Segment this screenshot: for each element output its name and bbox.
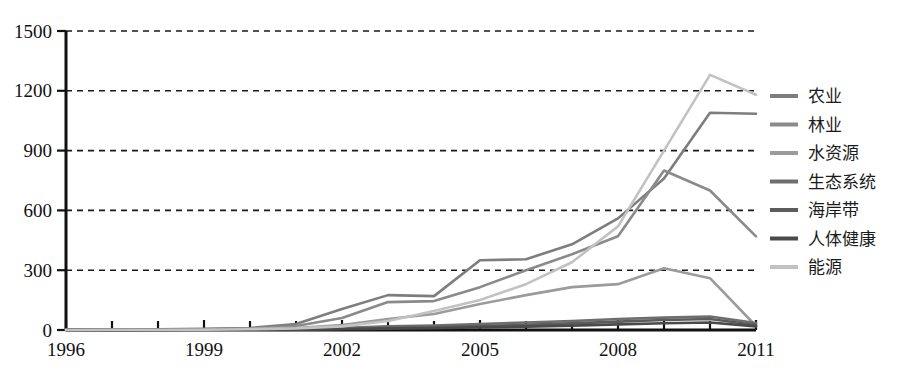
legend-label-4: 海岸带 — [808, 200, 859, 220]
y-tick-label: 1200 — [14, 80, 52, 101]
series-line-1 — [66, 171, 756, 330]
gridlines — [66, 31, 756, 270]
chart-canvas: 030060090012001500 199619992002200520082… — [0, 0, 900, 378]
y-tick-label: 0 — [43, 320, 53, 341]
y-axis: 030060090012001500 — [14, 21, 66, 341]
legend-label-5: 人体健康 — [808, 229, 876, 249]
x-tick-label: 2011 — [737, 339, 774, 360]
x-tick-label: 1996 — [47, 339, 85, 360]
legend-label-6: 能源 — [808, 257, 842, 277]
y-tick-label: 1500 — [14, 21, 52, 42]
x-tick-label: 1999 — [185, 339, 223, 360]
series-line-6 — [66, 75, 756, 330]
series-line-0 — [66, 113, 756, 330]
legend-label-1: 林业 — [808, 115, 842, 135]
y-tick-label: 600 — [24, 200, 53, 221]
x-tick-label: 2005 — [461, 339, 499, 360]
legend: 农业林业水资源生态系统海岸带人体健康能源 — [770, 86, 876, 277]
x-tick-label: 2008 — [599, 339, 637, 360]
line-chart: 030060090012001500 199619992002200520082… — [0, 0, 900, 378]
y-tick-label: 900 — [24, 140, 53, 161]
data-series — [66, 75, 756, 330]
legend-label-3: 生态系统 — [808, 172, 876, 192]
x-tick-label: 2002 — [323, 339, 361, 360]
legend-label-0: 农业 — [808, 86, 842, 106]
y-tick-label: 300 — [24, 260, 53, 281]
legend-label-2: 水资源 — [808, 143, 859, 163]
